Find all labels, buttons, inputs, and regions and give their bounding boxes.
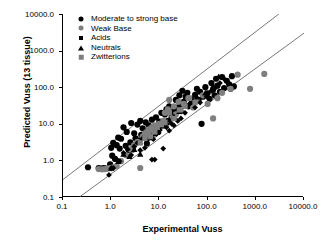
legend-marker-icon	[74, 52, 88, 62]
data-point	[198, 121, 204, 127]
data-point	[137, 151, 143, 157]
legend-item: Zwitterions	[74, 52, 178, 62]
data-point	[171, 116, 176, 121]
legend-item-label: Zwitterions	[88, 52, 130, 62]
data-point	[171, 103, 177, 109]
data-point	[214, 95, 220, 101]
legend-item: Acids	[74, 33, 178, 43]
data-point	[205, 101, 211, 107]
data-point	[128, 120, 134, 126]
x-tick-label: 1000.0	[231, 202, 279, 211]
x-tick-mark	[110, 197, 111, 200]
legend-item: Moderate to strong base	[74, 14, 178, 24]
series-weak-base	[96, 71, 268, 173]
data-point	[137, 165, 143, 171]
data-point	[187, 96, 192, 101]
x-tick-label: 1.0	[86, 202, 134, 211]
data-point	[261, 71, 267, 77]
legend-marker-icon	[74, 14, 88, 24]
data-point	[227, 86, 233, 92]
data-point	[229, 73, 235, 79]
data-point	[177, 107, 182, 112]
x-tick-label: 10000.0	[279, 202, 327, 211]
x-tick-label: 0.1	[38, 202, 86, 211]
scatter-plot-figure: 10000.01000.0100.010.01.00.1 0.11.010.01…	[0, 0, 327, 242]
legend-item: Neutrals	[74, 43, 178, 53]
x-tick-mark	[62, 197, 63, 200]
data-point	[137, 118, 143, 124]
data-point	[219, 90, 225, 96]
data-point	[160, 146, 166, 152]
data-point	[166, 97, 172, 103]
y-tick-label: 0.1	[8, 193, 54, 202]
legend-item-label: Moderate to strong base	[88, 14, 178, 24]
legend-item-label: Acids	[88, 33, 111, 43]
data-point	[117, 146, 123, 152]
legend-marker-icon	[74, 24, 88, 34]
data-point	[210, 115, 216, 121]
legend-item-label: Neutrals	[88, 43, 121, 53]
data-point	[235, 72, 241, 78]
x-tick-mark	[158, 197, 159, 200]
data-point	[138, 140, 143, 145]
data-point	[247, 86, 253, 92]
data-point	[118, 136, 124, 142]
legend-item-label: Weak Base	[88, 24, 132, 34]
x-tick-mark	[255, 197, 256, 200]
data-point	[85, 164, 91, 170]
data-point	[182, 104, 187, 109]
x-tick-label: 10.0	[134, 202, 182, 211]
y-axis-label: Predicted Vuss (13 tissue)	[22, 17, 32, 167]
data-point	[184, 90, 190, 96]
legend-item: Weak Base	[74, 24, 178, 34]
chart-legend: Moderate to strong baseWeak BaseAcidsNeu…	[74, 14, 178, 62]
data-point	[124, 129, 130, 135]
x-tick-mark	[303, 197, 304, 200]
x-axis-label: Experimental Vuss	[62, 224, 303, 234]
data-point	[192, 100, 197, 105]
data-point	[167, 110, 172, 115]
x-tick-mark	[207, 197, 208, 200]
data-point	[202, 84, 208, 90]
legend-marker-icon	[74, 43, 88, 53]
data-point	[162, 120, 167, 125]
x-tick-label: 100.0	[183, 202, 231, 211]
legend-marker-icon	[74, 33, 88, 43]
